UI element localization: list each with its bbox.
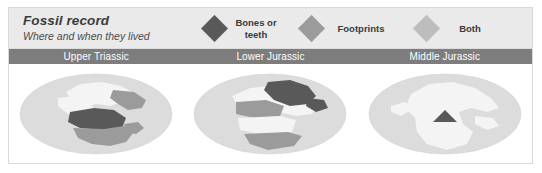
figure-header: Fossil record Where and when they lived …: [9, 8, 532, 49]
period-label-lower-jurassic: Lower Jurassic: [236, 50, 304, 63]
period-cell-upper-triassic: Upper Triassic: [9, 49, 183, 64]
legend-label-bones-or-teeth: Bones or teeth: [233, 17, 279, 40]
map-cell-upper-triassic: [9, 64, 183, 164]
legend-item-bones-or-teeth: Bones or teeth: [205, 8, 288, 49]
legend-item-both: Both: [417, 8, 504, 49]
legend: Bones or teeth Footprints Both: [205, 8, 528, 49]
globe-map-lower-jurassic: [192, 72, 348, 156]
period-label-upper-triassic: Upper Triassic: [64, 50, 129, 63]
map-cell-lower-jurassic: [183, 64, 357, 164]
legend-label-footprints: Footprints: [330, 23, 392, 35]
globe-map-middle-jurassic: [367, 72, 523, 156]
globe-map-upper-triassic: [18, 72, 174, 156]
diamond-icon: [413, 15, 440, 42]
diamond-icon: [201, 15, 228, 42]
diamond-icon: [298, 15, 325, 42]
maps-row: [9, 64, 532, 164]
map-cell-middle-jurassic: [358, 64, 532, 164]
period-cell-lower-jurassic: Lower Jurassic: [183, 49, 357, 64]
period-label-middle-jurassic: Middle Jurassic: [410, 50, 480, 63]
figure-subtitle: Where and when they lived: [23, 29, 213, 43]
region-north-america-central: [238, 116, 296, 134]
period-bar: Upper Triassic Lower Jurassic Middle Jur…: [9, 49, 532, 64]
figure-title: Fossil record: [23, 13, 213, 29]
legend-item-footprints: Footprints: [302, 8, 401, 49]
fossil-record-figure: Fossil record Where and when they lived …: [8, 7, 533, 164]
legend-label-both: Both: [445, 23, 495, 35]
period-cell-middle-jurassic: Middle Jurassic: [358, 49, 532, 64]
title-block: Fossil record Where and when they lived: [23, 13, 213, 43]
